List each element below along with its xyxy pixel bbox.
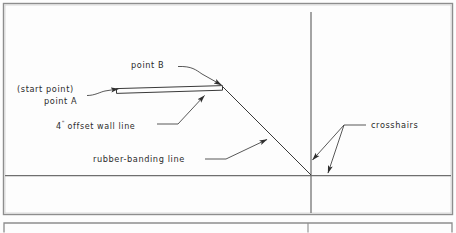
leader-crosshairs [313,125,367,173]
leader-offset-wall [157,96,205,125]
label-crosshairs: crosshairs [371,120,418,130]
label-point-a: point A [44,96,77,106]
leader-start-point [87,89,119,96]
rubber-banding-line [223,87,312,176]
drawing-viewport-frame [4,4,453,215]
label-rubber-banding-line: rubber-banding line [93,154,185,164]
offset-wall-text: offset wall line [64,122,135,131]
leader-rubber-banding [205,140,267,160]
leader-point-b [178,66,222,85]
label-offset-wall-line: 4" offset wall line [56,119,135,132]
diagram-canvas [0,0,456,233]
label-point-b: point B [131,60,164,70]
offset-wall-rectangle [117,86,223,94]
lower-viewport-frame [4,223,452,233]
label-start-point: (start point) [17,84,74,94]
cad-diagram-figure: (start point) point A 4" offset wall lin… [0,0,456,233]
